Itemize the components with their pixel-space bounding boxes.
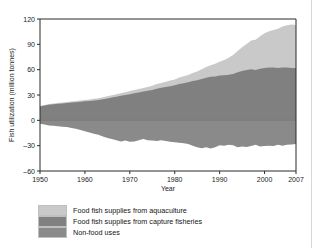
x-tick-label: 1980 — [167, 176, 183, 183]
y-tick-label: 90 — [27, 41, 35, 48]
x-tick-label: 2000 — [257, 176, 273, 183]
chart-legend: Food fish supplies from aquaculture Food… — [38, 205, 202, 238]
legend-swatch-non-food-uses — [38, 227, 67, 238]
legend-item: Food fish supplies from aquaculture — [38, 205, 202, 216]
x-tick-label: 1990 — [212, 176, 228, 183]
page-edge-line — [311, 0, 312, 248]
area-capture-fisheries — [40, 68, 296, 121]
x-axis-ticks: 1950196019701980199020002007 — [32, 171, 304, 183]
chart-figure: –60–300306090120 19501960197019801990200… — [0, 0, 316, 248]
y-tick-label: –60 — [23, 168, 35, 175]
x-tick-label: 2007 — [288, 176, 304, 183]
y-tick-label: 30 — [27, 92, 35, 99]
y-axis-title: Fish utilization (million tonnes) — [8, 48, 16, 142]
legend-swatch-aquaculture — [38, 205, 67, 216]
legend-item: Non-food uses — [38, 227, 202, 238]
y-axis-ticks: –60–300306090120 — [23, 16, 40, 175]
x-axis-title: Year — [161, 185, 176, 192]
legend-swatch-capture-fisheries — [38, 216, 67, 227]
y-tick-label: 120 — [23, 16, 35, 23]
legend-item: Food fish supplies from capture fisherie… — [38, 216, 202, 227]
y-tick-label: 60 — [27, 66, 35, 73]
legend-label-non-food-uses: Non-food uses — [73, 228, 120, 237]
y-tick-label: –30 — [23, 142, 35, 149]
y-tick-label: 0 — [31, 117, 35, 124]
legend-label-aquaculture: Food fish supplies from aquaculture — [73, 206, 187, 215]
legend-label-capture-fisheries: Food fish supplies from capture fisherie… — [73, 217, 202, 226]
x-tick-label: 1960 — [77, 176, 93, 183]
area-non-food-uses — [40, 120, 296, 148]
x-tick-label: 1950 — [32, 176, 48, 183]
chart-areas — [40, 24, 296, 148]
x-tick-label: 1970 — [122, 176, 138, 183]
